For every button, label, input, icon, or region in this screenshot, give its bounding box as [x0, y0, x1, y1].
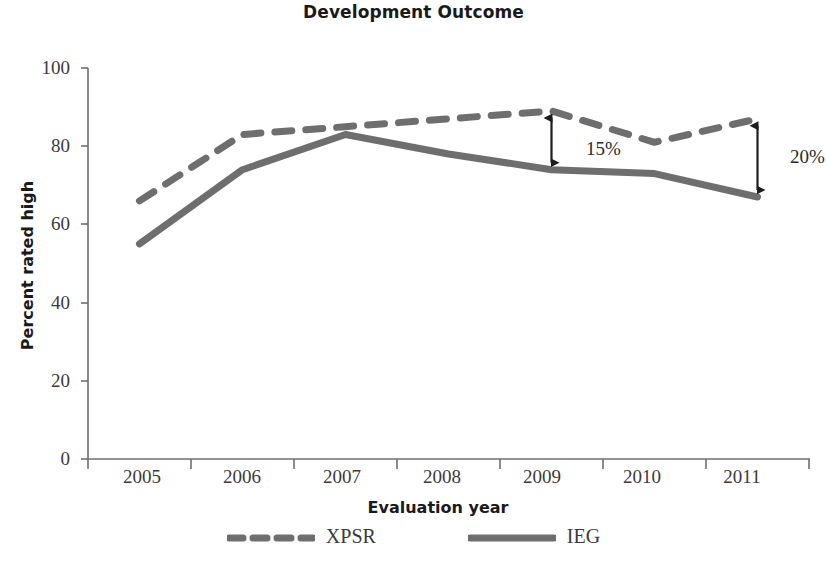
legend-entry-ieg: IEG — [468, 525, 600, 548]
chart-legend: XPSR IEG — [0, 525, 827, 548]
legend-swatch-xpsr — [227, 534, 315, 540]
legend-label-xpsr: XPSR — [326, 525, 376, 548]
plot-area — [0, 0, 827, 562]
legend-label-ieg: IEG — [567, 525, 600, 548]
chart-container: Development Outcome Percent rated high 1… — [0, 0, 827, 562]
series-line-ieg — [140, 135, 758, 244]
x-tick-marks — [88, 459, 809, 469]
legend-swatch-ieg — [468, 534, 556, 540]
legend-entry-xpsr: XPSR — [227, 525, 376, 548]
y-tick-marks — [81, 68, 88, 459]
